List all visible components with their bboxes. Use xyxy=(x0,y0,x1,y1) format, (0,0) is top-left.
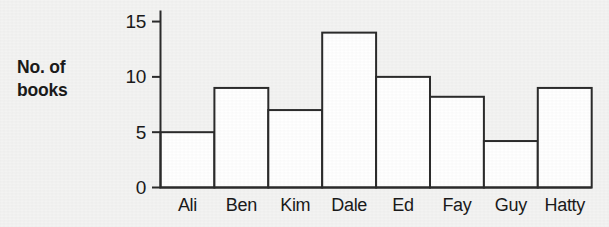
bar-hatty xyxy=(538,88,592,188)
bar-guy xyxy=(484,141,538,187)
bar-chart xyxy=(0,0,609,227)
bar-fay xyxy=(430,97,484,188)
bar-ali xyxy=(161,132,215,187)
y-tick-label-10: 10 xyxy=(104,67,146,86)
y-tick-label-0: 0 xyxy=(104,178,146,197)
y-tick-label-15: 15 xyxy=(104,12,146,31)
y-tick-label-5: 5 xyxy=(104,123,146,142)
bars-group xyxy=(161,33,592,188)
bar-dale xyxy=(322,33,376,188)
bar-ed xyxy=(376,77,430,188)
bar-ben xyxy=(214,88,268,188)
bar-kim xyxy=(268,110,322,187)
x-label-hatty: Hatty xyxy=(532,196,598,214)
